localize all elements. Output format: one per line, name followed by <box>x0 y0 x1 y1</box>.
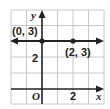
point-label-0-3: (0, 3) <box>12 25 38 37</box>
y-axis-label: y <box>29 9 36 21</box>
origin-label: O <box>32 90 40 102</box>
point-0-3 <box>39 38 44 43</box>
coordinate-graph: y (0, 3) (2, 3) 2 O 2 x <box>0 0 110 109</box>
line-right-arrow-icon <box>96 38 104 45</box>
x-tick-label: 2 <box>70 90 76 102</box>
y-tick-label: 2 <box>32 52 38 64</box>
x-axis-label: x <box>95 90 102 102</box>
y-axis-arrow-icon <box>39 10 46 18</box>
point-2-3 <box>70 38 75 43</box>
point-label-2-3: (2, 3) <box>65 46 91 58</box>
